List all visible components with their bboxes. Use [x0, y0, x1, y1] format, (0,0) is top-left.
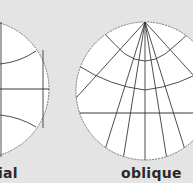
- oblique-label: oblique: [121, 165, 182, 181]
- oblique-projection: [76, 22, 193, 160]
- oblique-outline: [76, 22, 193, 160]
- equatorial-projection: [0, 20, 49, 158]
- equatorial-label: ial: [0, 165, 18, 181]
- projection-diagram: [0, 0, 193, 183]
